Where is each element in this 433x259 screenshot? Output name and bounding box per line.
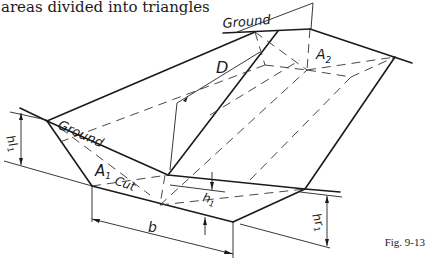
h1-ref-line [170, 185, 225, 192]
h1-top-arrow-icon [210, 182, 214, 189]
label-a1: A1 [94, 162, 111, 181]
right-longitudinal-edge [305, 57, 395, 189]
left-ref-line [10, 112, 47, 120]
label-hl1: hl1 [1, 133, 22, 154]
label-h1: h1 [201, 190, 217, 209]
right-slope [233, 189, 305, 222]
hl1-ref-line [4, 161, 92, 186]
label-b: b [148, 219, 157, 235]
d-extension-line [170, 103, 177, 170]
label-hr1: hr1 [307, 211, 328, 233]
label-cut: Cut [113, 174, 138, 195]
hr1-arrow-up-icon [325, 196, 329, 203]
dash-base-diag [160, 189, 305, 205]
label-d: D [216, 58, 228, 77]
label-a2: A2 [315, 46, 332, 65]
dash-far-c [307, 70, 351, 77]
right-ref-line-top [300, 192, 342, 197]
b-dimension-line [92, 219, 233, 254]
right-ground-stub [305, 189, 340, 192]
dash-long-3 [250, 77, 351, 180]
dash-far-vertical [307, 29, 310, 70]
near-right-ground [168, 175, 305, 189]
dash-far-a [265, 65, 307, 70]
top-leader-vertical [311, 3, 313, 29]
h1-bottom-arrow-icon [203, 218, 207, 225]
figure-label: Fig. 9-13 [385, 236, 425, 248]
cross-section-diagram: Ground Ground D A2 A1 Cut b hl1 hr1 h1 [0, 0, 433, 259]
b-arrow-left-icon [92, 219, 100, 223]
hr1-arrow-down-icon [325, 239, 329, 246]
label-ground-top: Ground [222, 12, 272, 31]
hl1-arrow-down-icon [19, 158, 23, 165]
b-arrow-right-icon [224, 250, 233, 254]
